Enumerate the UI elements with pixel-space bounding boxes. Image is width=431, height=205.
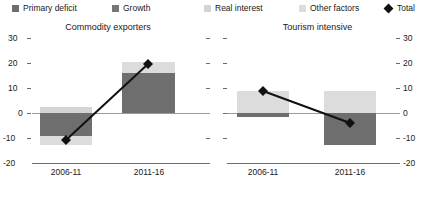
xtick-label-2006-11: 2006-11 [36, 167, 96, 177]
legend-item-other-factors: Other factors [299, 4, 359, 13]
legend-label-growth: Growth [123, 4, 150, 13]
panel-tourism-intensive: Tourism intensive 30 20 10 0 -10 -20 [215, 22, 431, 205]
legend-item-total: Total [384, 4, 415, 13]
chart-legend: Primary deficit Growth Real interest Oth… [0, 4, 431, 18]
legend-item-growth: Growth [112, 4, 150, 13]
legend-label-real-interest: Real interest [215, 4, 263, 13]
xtick-label-r-2006-11: 2006-11 [233, 167, 293, 177]
total-marker-r-2006-11 [258, 86, 268, 96]
legend-label-other-factors: Other factors [310, 4, 359, 13]
xtick-label-r-2011-16: 2011-16 [320, 167, 380, 177]
total-marker-r-2011-16 [345, 118, 355, 128]
chart-panels: Commodity exporters 30 20 10 0 -10 -20 [0, 22, 431, 205]
total-series-line [0, 22, 216, 205]
diamond-marker-icon [384, 4, 394, 14]
total-series-line-right [215, 22, 431, 205]
legend-swatch-other-factors [299, 5, 306, 12]
legend-item-primary-deficit: Primary deficit [12, 4, 77, 13]
legend-item-real-interest: Real interest [204, 4, 263, 13]
legend-swatch-primary-deficit [12, 5, 19, 12]
legend-swatch-real-interest [204, 5, 211, 12]
legend-swatch-growth [112, 5, 119, 12]
legend-label-primary-deficit: Primary deficit [23, 4, 77, 13]
legend-label-total: Total [397, 4, 415, 13]
xtick-label-2011-16: 2011-16 [119, 167, 179, 177]
panel-commodity-exporters: Commodity exporters 30 20 10 0 -10 -20 [0, 22, 216, 205]
